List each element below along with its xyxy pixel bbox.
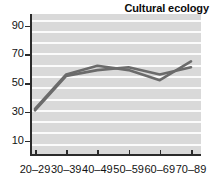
series-lines-layer: [31, 14, 201, 155]
y-tick-mark: [25, 26, 31, 28]
y-tick-label: 10: [2, 134, 24, 146]
x-tick-label: 70–89: [176, 163, 207, 175]
x-tick-label: 20–29: [20, 163, 51, 175]
plot-area: [31, 14, 201, 155]
chart-title: Cultural ecology: [124, 2, 209, 14]
y-tick-mark: [25, 83, 31, 85]
x-tick-mark: [97, 150, 99, 156]
y-tick-mark: [25, 54, 31, 56]
x-tick-mark: [129, 150, 131, 156]
x-axis-line: [30, 154, 201, 156]
series-line-2: [35, 67, 191, 110]
x-tick-mark: [66, 150, 68, 156]
y-tick-label: 70: [2, 47, 24, 59]
y-tick-label: 90: [2, 19, 24, 31]
y-tick-label: 30: [2, 105, 24, 117]
x-tick-label: 30–39: [51, 163, 82, 175]
y-tick-mark: [25, 112, 31, 114]
y-tick-label: 50: [2, 76, 24, 88]
x-tick-label: 50–59: [113, 163, 144, 175]
chart-figure: Cultural ecology 1030507090 20–2930–3940…: [0, 0, 214, 185]
x-tick-label: 40–49: [82, 163, 113, 175]
y-tick-mark: [25, 141, 31, 143]
x-tick-mark: [191, 150, 193, 156]
x-tick-label: 60–69: [145, 163, 176, 175]
x-tick-mark: [35, 150, 37, 156]
x-tick-mark: [160, 150, 162, 156]
